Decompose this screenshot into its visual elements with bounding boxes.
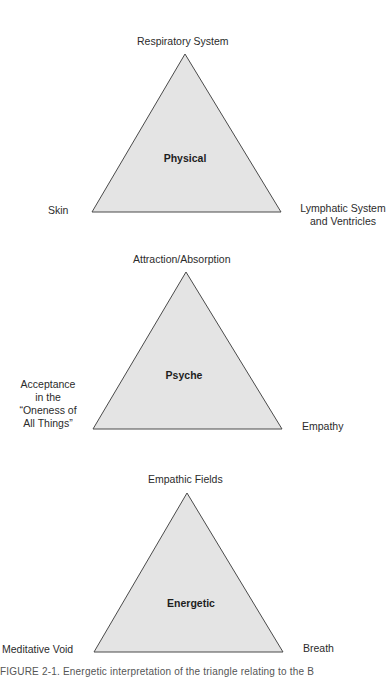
physical-right-label-line2: and Ventricles: [297, 215, 389, 228]
physical-triangle: [92, 54, 281, 212]
figure-caption: FIGURE 2-1. Energetic interpretation of …: [0, 666, 314, 677]
psyche-title: Psyche: [166, 369, 203, 381]
physical-apex-label: Respiratory System: [137, 35, 229, 48]
physical-right-label: Lymphatic System and Ventricles: [297, 202, 389, 228]
physical-left-label: Skin: [48, 204, 68, 217]
energetic-apex-label: Empathic Fields: [148, 473, 223, 486]
psyche-left-label-line3: “Oneness of: [14, 404, 82, 417]
psyche-right-label: Empathy: [302, 420, 343, 433]
physical-title: Physical: [164, 152, 207, 164]
psyche-left-label-line4: All Things”: [14, 417, 82, 430]
energetic-right-label: Breath: [303, 642, 334, 655]
energetic-left-label: Meditative Void: [2, 643, 73, 656]
psyche-triangle: [93, 272, 282, 429]
physical-right-label-line1: Lymphatic System: [297, 202, 389, 215]
psyche-apex-label: Attraction/Absorption: [133, 253, 230, 266]
psyche-left-label-line2: in the: [14, 391, 82, 404]
energetic-title: Energetic: [167, 597, 215, 609]
energetic-triangle: [94, 493, 283, 652]
psyche-left-label-line1: Acceptance: [14, 378, 82, 391]
psyche-left-label: Acceptance in the “Oneness of All Things…: [14, 378, 82, 430]
